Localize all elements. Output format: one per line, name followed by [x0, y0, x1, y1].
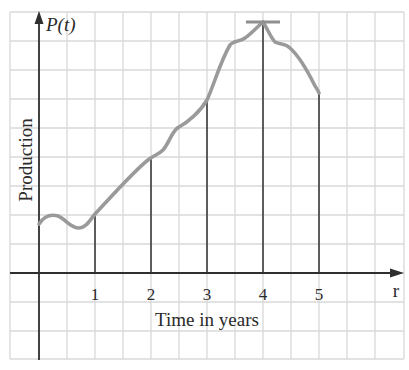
- y-axis-function-label: P(t): [45, 14, 76, 36]
- x-tick-4: 4: [259, 285, 268, 304]
- x-tick-2: 2: [147, 285, 156, 304]
- x-tick-5: 5: [315, 285, 324, 304]
- x-tick-1: 1: [91, 285, 100, 304]
- x-axis-variable-label: r: [393, 280, 400, 301]
- y-axis-title: Production: [15, 118, 36, 202]
- production-chart: P(t) Production 1 2 3 4 5 r Time in year…: [0, 0, 409, 370]
- x-axis-title: Time in years: [155, 309, 259, 330]
- x-axis-arrow-icon: [390, 269, 404, 278]
- y-axis-arrow-icon: [35, 11, 44, 24]
- x-tick-3: 3: [203, 285, 212, 304]
